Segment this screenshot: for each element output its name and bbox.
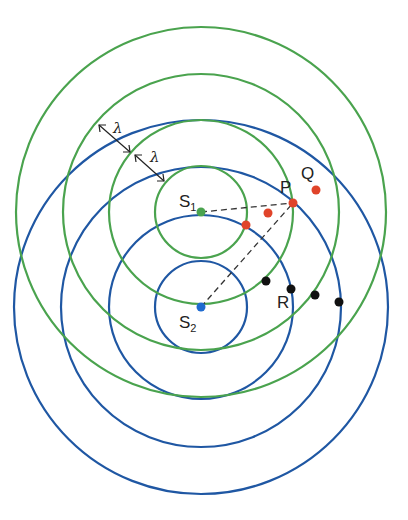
source1-label: S1 xyxy=(179,192,196,213)
source2-dot xyxy=(197,303,206,312)
constructive-point xyxy=(242,221,251,230)
point-r-label: R xyxy=(277,293,289,312)
point-q-label: Q xyxy=(301,164,314,183)
destructive-point xyxy=(262,277,271,286)
source2-label: S2 xyxy=(179,313,196,334)
constructive-point xyxy=(289,199,298,208)
destructive-point xyxy=(311,291,320,300)
destructive-point xyxy=(335,298,344,307)
interference-diagram: λ λ S1 S2 P Q R xyxy=(0,0,408,520)
wavelength-label-2: λ xyxy=(149,148,160,166)
constructive-point xyxy=(312,186,321,195)
source1-dot xyxy=(197,208,206,217)
wavelength-label-1: λ xyxy=(112,119,123,137)
point-p-label: P xyxy=(280,178,291,197)
constructive-point xyxy=(264,209,273,218)
